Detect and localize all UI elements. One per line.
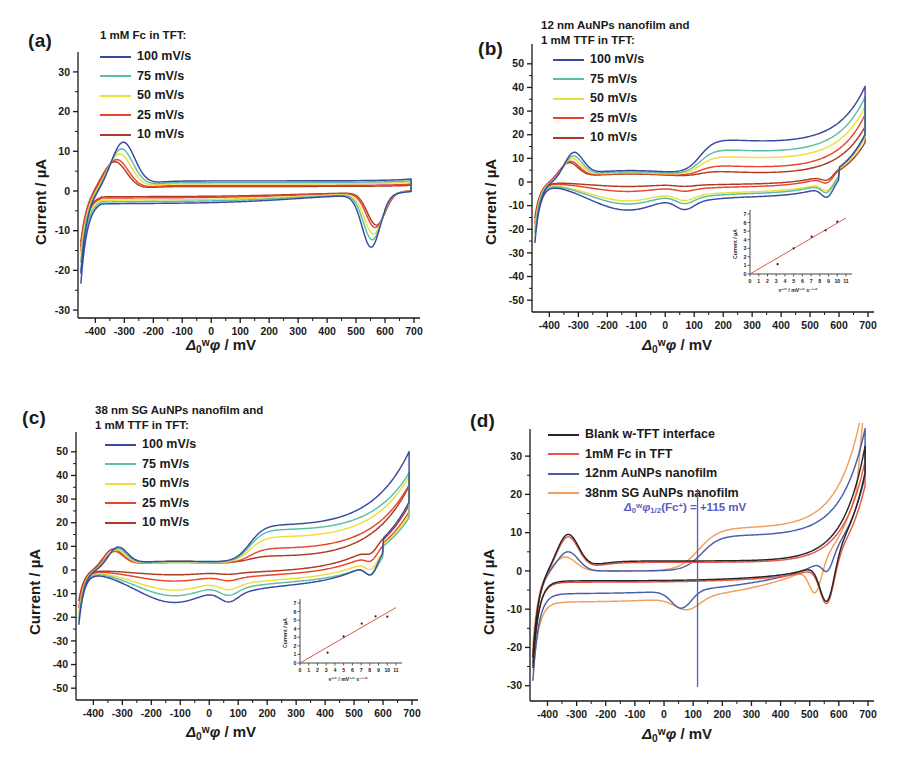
svg-text:8: 8 [368,667,371,673]
svg-text:0: 0 [749,278,752,284]
svg-text:50: 50 [512,57,524,69]
svg-text:4: 4 [333,667,336,673]
svg-text:300: 300 [289,325,307,337]
svg-text:50: 50 [56,445,68,457]
svg-text:-30: -30 [55,304,70,316]
svg-text:2: 2 [316,667,319,673]
svg-text:-20: -20 [53,611,68,623]
svg-text:500: 500 [801,708,819,720]
svg-text:3: 3 [325,667,328,673]
svg-text:0: 0 [744,271,747,277]
svg-text:-100: -100 [172,325,193,337]
svg-text:20: 20 [510,488,522,500]
svg-text:7: 7 [360,667,363,673]
panel-d-plot: -30-20-100102030-400-300-200-10001002003… [456,385,912,770]
svg-text:1: 1 [307,667,310,673]
svg-text:400: 400 [772,319,790,331]
svg-text:2: 2 [744,254,747,260]
svg-text:300: 300 [743,319,761,331]
svg-text:0: 0 [62,564,68,576]
svg-text:-400: -400 [539,319,560,331]
svg-text:300: 300 [743,708,761,720]
svg-text:500: 500 [345,707,363,719]
svg-text:4: 4 [294,626,297,632]
svg-text:20: 20 [58,105,70,117]
svg-text:-50: -50 [509,294,524,306]
panel-a-plot: -30-20-100102030-400-300-200-10001002003… [0,0,456,385]
svg-text:-400: -400 [83,707,104,719]
svg-text:9: 9 [377,667,380,673]
panel-c-plot: -50-40-30-20-1001020304050-400-300-200-1… [0,385,456,770]
figure-cyclic-voltammetry: (a) 1 mM Fc in TFT: 100 mV/s 75 mV/s 50 … [0,0,912,771]
svg-text:-10: -10 [53,587,68,599]
svg-text:-300: -300 [566,708,587,720]
svg-text:500: 500 [347,325,365,337]
svg-text:1: 1 [757,278,760,284]
svg-text:Current / µA: Current / µA [282,618,288,648]
svg-text:-100: -100 [626,319,647,331]
svg-text:10: 10 [58,145,70,157]
svg-text:7: 7 [744,211,747,217]
svg-text:4: 4 [744,237,747,243]
svg-text:-300: -300 [112,707,133,719]
svg-text:1: 1 [294,651,297,657]
svg-text:600: 600 [376,325,394,337]
svg-text:30: 30 [512,105,524,117]
svg-text:-30: -30 [509,247,524,259]
svg-text:40: 40 [512,81,524,93]
svg-text:400: 400 [316,707,334,719]
svg-text:700: 700 [405,325,423,337]
svg-text:700: 700 [403,707,421,719]
svg-text:0: 0 [294,660,297,666]
svg-text:500: 500 [801,319,819,331]
svg-text:100: 100 [229,707,247,719]
svg-text:0: 0 [516,565,522,577]
svg-text:-300: -300 [568,319,589,331]
svg-text:200: 200 [258,707,276,719]
svg-text:ν¹ᐟ² / mV¹ᐟ² s⁻¹ᐟ²: ν¹ᐟ² / mV¹ᐟ² s⁻¹ᐟ² [779,287,818,293]
svg-text:0: 0 [518,176,524,188]
svg-text:6: 6 [351,667,354,673]
svg-text:10: 10 [56,540,68,552]
svg-text:600: 600 [830,708,848,720]
svg-text:7: 7 [810,278,813,284]
svg-text:0: 0 [208,325,214,337]
svg-text:-10: -10 [509,199,524,211]
panel-a: (a) 1 mM Fc in TFT: 100 mV/s 75 mV/s 50 … [0,0,456,385]
svg-text:ν¹ᐟ² / mV¹ᐟ² s⁻¹ᐟ²: ν¹ᐟ² / mV¹ᐟ² s⁻¹ᐟ² [329,676,368,682]
svg-text:-10: -10 [507,603,522,615]
svg-text:600: 600 [374,707,392,719]
svg-text:700: 700 [859,319,877,331]
svg-text:-100: -100 [624,708,645,720]
svg-text:400: 400 [318,325,336,337]
svg-text:5: 5 [342,667,345,673]
svg-text:30: 30 [510,450,522,462]
svg-text:200: 200 [714,708,732,720]
svg-text:-200: -200 [143,325,164,337]
svg-text:11: 11 [393,667,399,673]
svg-text:40: 40 [56,469,68,481]
svg-text:5: 5 [744,228,747,234]
svg-text:-40: -40 [53,658,68,670]
svg-text:300: 300 [287,707,305,719]
svg-text:-100: -100 [170,707,191,719]
svg-text:6: 6 [801,278,804,284]
svg-text:20: 20 [56,516,68,528]
svg-text:-200: -200 [595,708,616,720]
svg-text:-30: -30 [507,679,522,691]
svg-text:10: 10 [834,278,840,284]
svg-text:0: 0 [661,708,667,720]
svg-text:5: 5 [294,617,297,623]
svg-text:-20: -20 [507,641,522,653]
svg-text:700: 700 [859,708,877,720]
svg-text:2: 2 [766,278,769,284]
panel-b: (b) 12 nm AuNPs nanofilm and 1 mM TTF in… [456,0,912,385]
svg-text:30: 30 [58,66,70,78]
svg-text:-300: -300 [114,325,135,337]
svg-text:3: 3 [744,245,747,251]
svg-text:6: 6 [294,609,297,615]
panel-b-plot: -50-40-30-20-1001020304050-400-300-200-1… [456,0,912,385]
svg-text:100: 100 [684,708,702,720]
svg-text:5: 5 [792,278,795,284]
svg-text:20: 20 [512,128,524,140]
